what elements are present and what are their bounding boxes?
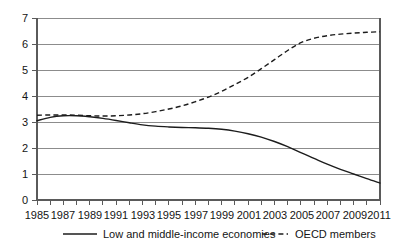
legend-label-1: OECD members <box>295 228 376 240</box>
x-axis-label-2003: 2003 <box>263 209 287 221</box>
x-tick-marks <box>37 200 380 205</box>
x-axis-label-1985: 1985 <box>25 209 49 221</box>
y-tick-marks <box>32 18 37 200</box>
y-axis-tick-labels: 7 6 5 4 3 2 1 0 <box>22 12 28 206</box>
x-axis-label-2001: 2001 <box>237 209 261 221</box>
x-axis-label-1999: 1999 <box>210 209 234 221</box>
line-chart-figure: 7 6 5 4 3 2 1 0 1985 1987 1989 1991 1993… <box>0 0 418 248</box>
x-axis-label-1995: 1995 <box>157 209 181 221</box>
y-axis-label-6: 6 <box>22 38 28 50</box>
series-line-low-and-middle-income-economies <box>37 116 380 184</box>
x-axis-label-1991: 1991 <box>104 209 128 221</box>
x-axis-label-2005: 2005 <box>290 209 314 221</box>
y-axis-label-2: 2 <box>22 142 28 154</box>
y-axis-label-7: 7 <box>22 12 28 24</box>
x-axis-label-1989: 1989 <box>78 209 102 221</box>
gridlines <box>37 18 380 174</box>
y-axis-label-4: 4 <box>22 90 28 102</box>
x-axis-label-2011: 2011 <box>367 209 391 221</box>
chart-plot-area: 7 6 5 4 3 2 1 0 1985 1987 1989 1991 1993… <box>0 0 418 248</box>
x-axis-tick-labels: 1985 1987 1989 1991 1993 1995 1997 1999 … <box>25 209 391 221</box>
x-axis-label-1987: 1987 <box>51 209 75 221</box>
y-axis-label-1: 1 <box>22 168 28 180</box>
y-axis-label-5: 5 <box>22 64 28 76</box>
chart-legend: Low and middle-income economies OECD mem… <box>63 228 376 240</box>
y-axis-label-3: 3 <box>22 116 28 128</box>
x-axis-label-2009: 2009 <box>343 209 367 221</box>
x-axis-label-1997: 1997 <box>184 209 208 221</box>
x-axis-label-1993: 1993 <box>131 209 155 221</box>
legend-label-0: Low and middle-income economies <box>103 228 276 240</box>
y-axis-label-0: 0 <box>22 194 28 206</box>
x-axis-label-2007: 2007 <box>316 209 340 221</box>
